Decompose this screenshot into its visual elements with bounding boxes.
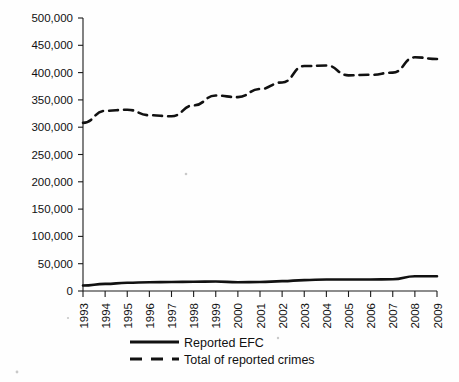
x-tick-label: 1994 [100, 302, 112, 328]
legend-label-2: Total of reported crimes [184, 353, 315, 367]
x-tick-label: 2002 [277, 303, 289, 329]
y-tick-label: 450,000 [31, 39, 73, 51]
x-tick-label: 2007 [387, 303, 399, 329]
x-tick-label: 2000 [232, 303, 244, 329]
x-tick-label: 2009 [432, 303, 444, 329]
x-tick-label: 1995 [122, 303, 134, 329]
x-tick-label: 1997 [166, 303, 178, 329]
legend-label-1: Reported EFC [184, 336, 264, 350]
x-tick-label: 2003 [299, 303, 311, 329]
x-tick-label: 1993 [78, 303, 90, 329]
x-tick-label: 2001 [255, 303, 267, 329]
x-tick-label: 1998 [188, 303, 200, 329]
series-line-total-reported-crimes [83, 57, 437, 123]
y-axis: 050,000100,000150,000200,000250,000300,0… [31, 12, 83, 297]
y-tick-label: 300,000 [31, 121, 73, 133]
line-chart: 050,000100,000150,000200,000250,000300,0… [0, 0, 459, 382]
x-axis: 1993199419951996199719981999200020012002… [78, 291, 444, 329]
chart-legend: Reported EFCTotal of reported crimes [130, 336, 315, 367]
x-tick-label: 2004 [321, 302, 333, 328]
x-tick-label: 2005 [343, 303, 355, 329]
y-tick-label: 150,000 [31, 203, 73, 215]
chart-figure: 050,000100,000150,000200,000250,000300,0… [0, 0, 459, 382]
y-tick-label: 0 [67, 285, 73, 297]
x-tick-label: 2008 [409, 303, 421, 329]
x-tick-label: 2006 [365, 303, 377, 329]
y-tick-label: 50,000 [38, 258, 73, 270]
y-tick-label: 500,000 [31, 12, 73, 24]
series-line-reported-efc [83, 276, 437, 285]
y-tick-label: 400,000 [31, 67, 73, 79]
x-tick-label: 1996 [144, 303, 156, 329]
x-tick-label: 1999 [210, 303, 222, 329]
y-tick-label: 200,000 [31, 176, 73, 188]
y-tick-label: 250,000 [31, 149, 73, 161]
y-tick-label: 100,000 [31, 230, 73, 242]
y-tick-label: 350,000 [31, 94, 73, 106]
